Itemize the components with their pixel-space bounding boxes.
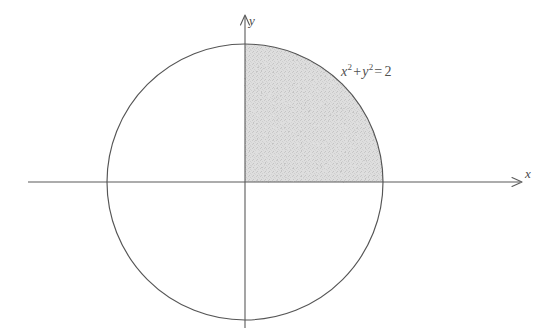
figure-canvas bbox=[0, 0, 551, 335]
equation-plus-operator: + bbox=[352, 64, 362, 79]
equation-right-hand-side: 2 bbox=[383, 64, 392, 79]
math-figure: x y x2+y2=2 bbox=[0, 0, 551, 335]
x-axis-label: x bbox=[525, 167, 531, 180]
equation-equals-operator: = bbox=[373, 64, 383, 79]
y-axis-label: y bbox=[249, 14, 255, 27]
equation-label: x2+y2=2 bbox=[341, 64, 393, 80]
